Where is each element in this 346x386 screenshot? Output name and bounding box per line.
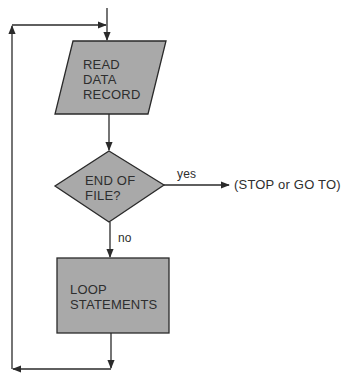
yes-label: yes [177, 167, 196, 181]
read-label-line-2: DATA [83, 73, 117, 87]
loop-label-line-2: STATEMENTS [70, 298, 157, 312]
decision-label-line-1: END OF [85, 174, 135, 188]
read-label-line-3: RECORD [83, 88, 141, 102]
flowchart-canvas [0, 0, 346, 386]
exit-label: (STOP or GO TO) [234, 178, 341, 192]
no-label: no [118, 231, 132, 245]
loop-label-line-1: LOOP [70, 283, 107, 297]
decision-label-line-2: FILE? [85, 189, 121, 203]
read-label-line-1: READ [83, 58, 120, 72]
